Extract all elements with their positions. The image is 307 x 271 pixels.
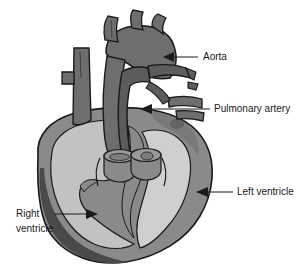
pulmonary-vein-stump-1 — [168, 97, 202, 108]
vena-cava-branch-stub — [62, 72, 74, 84]
right-ventricle-label-line-1: Right — [16, 208, 40, 219]
valve-orifice-left-inner — [110, 154, 130, 161]
oblique-connecting-vessel — [146, 82, 170, 104]
left-ventricle-label: Left ventricle — [237, 186, 294, 197]
pulmonary-branch-tip-b — [188, 82, 198, 90]
heart-anatomy-diagram: Aorta Pulmonary artery Left ventricle Ri… — [0, 0, 307, 271]
aorta-label: Aorta — [203, 51, 227, 62]
brachiocephalic-branch-1 — [104, 16, 118, 42]
valve-orifice-right-inner — [141, 152, 153, 160]
superior-vena-cava — [73, 48, 91, 125]
heart-diagram-svg: Aorta Pulmonary artery Left ventricle Ri… — [0, 0, 307, 271]
carotid-branch-2 — [131, 10, 143, 30]
pulmonary-artery-label: Pulmonary artery — [214, 103, 290, 114]
wall-marking — [170, 119, 184, 129]
right-ventricle-label-line-2: ventricle — [16, 223, 54, 234]
